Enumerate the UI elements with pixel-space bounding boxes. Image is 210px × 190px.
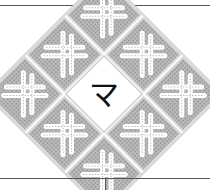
center-glyph: マ: [89, 77, 119, 112]
center-stem: [105, 178, 106, 190]
diamond-figure: マ: [0, 0, 210, 190]
